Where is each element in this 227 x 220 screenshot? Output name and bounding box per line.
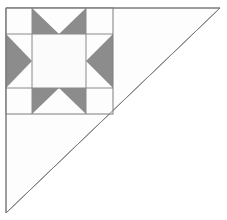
corner-square-bottom-left [6,88,32,114]
star-center-square [32,34,86,88]
corner-square-top-right [86,8,113,34]
quilt-diagram-root: Sawtooth Star Corner Triangle Quilt Bloc… [0,0,227,220]
corner-square-top-left [6,8,32,34]
quilt-block-illustration [0,0,227,220]
corner-square-bottom-right [86,88,113,114]
